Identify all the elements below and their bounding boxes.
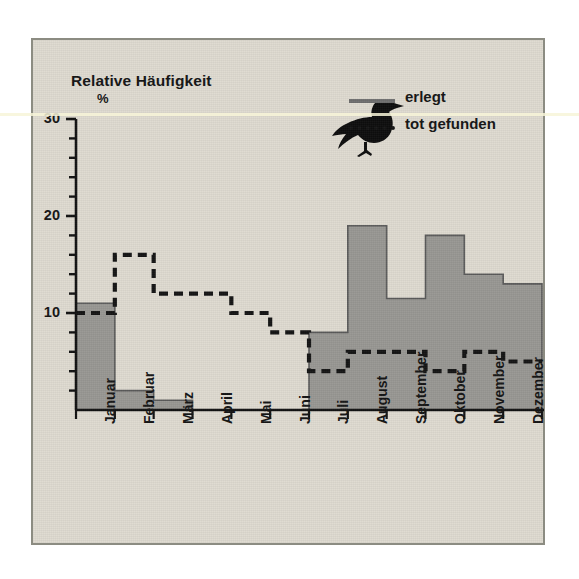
chart-figure: Relative Häufigkeit % erlegt tot gefunde… xyxy=(31,38,545,545)
y-axis-tick-label: 30 xyxy=(30,110,60,126)
x-axis-tick-label: Februar xyxy=(141,372,157,424)
x-axis-tick-label: Januar xyxy=(102,378,118,424)
x-axis-tick-label: März xyxy=(180,392,196,424)
x-axis-tick-label: Juni xyxy=(297,395,313,424)
y-axis-tick-label: 10 xyxy=(30,304,60,320)
chart-plot-area: 102030 JanuarFebruarMärzAprilMaiJuniJuli… xyxy=(33,40,547,547)
y-axis-tick-label: 20 xyxy=(30,207,60,223)
x-axis-tick-label: Oktober xyxy=(452,370,468,424)
x-axis-tick-label: Mai xyxy=(258,401,274,424)
chart-graphics xyxy=(33,40,547,547)
x-axis-tick-label: September xyxy=(413,352,429,424)
x-axis-tick-label: April xyxy=(219,392,235,424)
x-axis-tick-label: November xyxy=(491,356,507,424)
x-axis-tick-label: August xyxy=(374,376,390,424)
x-axis-tick-label: Dezember xyxy=(530,357,546,424)
x-axis-tick-label: Juli xyxy=(335,400,351,424)
